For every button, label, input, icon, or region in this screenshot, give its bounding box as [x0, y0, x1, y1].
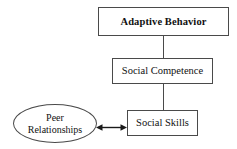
- node-peer-relationships-label: Peer Relationships: [28, 112, 82, 134]
- node-adaptive-behavior[interactable]: Adaptive Behavior: [98, 7, 229, 36]
- node-peer-relationships-label-line2: Relationships: [28, 124, 82, 135]
- edge-adaptive-behavior-to-social-competence: [163, 36, 164, 58]
- node-adaptive-behavior-label: Adaptive Behavior: [121, 16, 207, 27]
- node-social-skills[interactable]: Social Skills: [127, 110, 198, 136]
- node-peer-relationships-label-line1: Peer: [46, 112, 64, 123]
- edge-social-competence-to-social-skills: [163, 84, 164, 110]
- node-social-competence[interactable]: Social Competence: [112, 58, 213, 84]
- bidirectional-arrow-icon: [96, 123, 127, 132]
- diagram-canvas: Adaptive Behavior Social Competence Soci…: [0, 0, 237, 149]
- node-social-competence-label: Social Competence: [122, 65, 203, 76]
- node-social-skills-label: Social Skills: [136, 117, 189, 128]
- node-peer-relationships[interactable]: Peer Relationships: [13, 104, 97, 143]
- edge-peer-relationships-to-social-skills: [96, 123, 127, 132]
